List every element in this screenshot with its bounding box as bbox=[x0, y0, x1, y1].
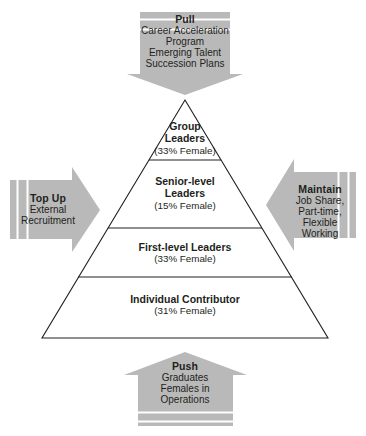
maintain-arrow-label: Maintain Job Share, Part-time, Flexible … bbox=[280, 183, 360, 239]
maintain-arrow-line-4: Working bbox=[280, 228, 360, 239]
tier-3-sub: (15% Female) bbox=[115, 200, 255, 212]
pyramid-tier-senior-level-leaders: Senior-level Leaders (15% Female) bbox=[115, 175, 255, 211]
pull-arrow-title: Pull bbox=[110, 13, 260, 25]
tier-1-sub: (31% Female) bbox=[95, 305, 275, 317]
top-up-arrow-label: Top Up External Recruitment bbox=[6, 192, 90, 226]
tier-3-title-line1: Senior-level bbox=[115, 175, 255, 187]
pull-arrow-line-3: Emerging Talent bbox=[110, 47, 260, 58]
push-arrow-line-1: Graduates bbox=[118, 372, 252, 383]
maintain-arrow-line-2: Part-time, bbox=[280, 206, 360, 217]
tier-3-title-line2: Leaders bbox=[115, 187, 255, 199]
tier-1-title: Individual Contributor bbox=[95, 293, 275, 305]
top-up-arrow-title: Top Up bbox=[6, 192, 90, 204]
tier-4-title-line1: Group bbox=[125, 120, 245, 132]
tier-4-title-line2: Leaders bbox=[125, 132, 245, 144]
pyramid-tier-group-leaders: Group Leaders (33% Female) bbox=[125, 120, 245, 156]
pull-arrow-line-1: Career Acceleration bbox=[110, 25, 260, 36]
tier-2-title: First-level Leaders bbox=[105, 241, 265, 253]
maintain-arrow-line-3: Flexible bbox=[280, 217, 360, 228]
top-up-arrow-line-2: Recruitment bbox=[6, 215, 90, 226]
pull-arrow-line-4: Succession Plans bbox=[110, 58, 260, 69]
maintain-arrow-title: Maintain bbox=[280, 183, 360, 195]
pyramid-tier-individual-contributor: Individual Contributor (31% Female) bbox=[95, 293, 275, 317]
top-up-arrow-line-1: External bbox=[6, 204, 90, 215]
push-arrow-label: Push Graduates Females in Operations bbox=[118, 360, 252, 405]
push-arrow-line-2: Females in bbox=[118, 383, 252, 394]
tier-2-sub: (33% Female) bbox=[105, 253, 265, 265]
pull-arrow-line-2: Program bbox=[110, 36, 260, 47]
pyramid-tier-first-level-leaders: First-level Leaders (33% Female) bbox=[105, 241, 265, 265]
tier-4-sub: (33% Female) bbox=[125, 145, 245, 157]
pull-arrow-label: Pull Career Acceleration Program Emergin… bbox=[110, 13, 260, 69]
diagram-canvas: Pull Career Acceleration Program Emergin… bbox=[0, 0, 366, 436]
push-arrow-line-3: Operations bbox=[118, 394, 252, 405]
push-arrow-title: Push bbox=[118, 360, 252, 372]
maintain-arrow-line-1: Job Share, bbox=[280, 195, 360, 206]
